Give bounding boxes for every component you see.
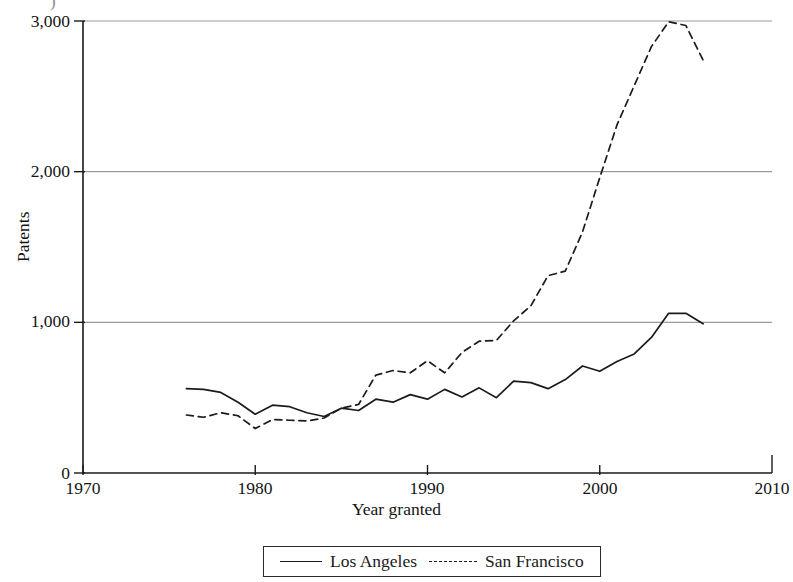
y-tick-label-3000: 3,000: [4, 13, 70, 31]
x-tick-label-1980: 1980: [215, 480, 295, 498]
x-tick-label-1990: 1990: [387, 480, 467, 498]
chart-figure: ) 3,000 2,000 1,000 0 1970 1980 1990 200…: [0, 0, 793, 582]
legend-label-los-angeles: Los Angeles: [330, 551, 417, 571]
y-axis-title: Patents: [15, 192, 33, 282]
y-tick-label-2000: 2,000: [4, 163, 70, 181]
legend-label-san-francisco: San Francisco: [485, 551, 584, 571]
legend-dashed-line-swatch: [429, 561, 477, 562]
x-tick-label-2010: 2010: [732, 480, 793, 498]
legend: Los Angeles San Francisco: [263, 546, 601, 577]
x-tick-label-2000: 2000: [560, 480, 640, 498]
legend-item-san-francisco: San Francisco: [429, 551, 584, 571]
legend-item-los-angeles: Los Angeles: [280, 551, 417, 571]
x-axis-title: Year granted: [0, 500, 793, 518]
y-tick-label-1000: 1,000: [4, 313, 70, 331]
legend-solid-line-swatch: [280, 561, 322, 562]
x-tick-label-1970: 1970: [43, 480, 123, 498]
series-line-los-angeles: [186, 313, 703, 416]
series-line-san-francisco: [186, 22, 703, 429]
